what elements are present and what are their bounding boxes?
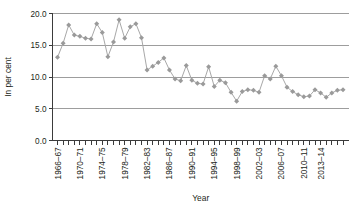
x-axis-tick-label: 2010–11 bbox=[300, 147, 309, 179]
data-point-marker bbox=[94, 21, 99, 26]
x-axis-tick-label: 1994–95 bbox=[210, 147, 219, 179]
data-point-marker bbox=[111, 40, 116, 45]
data-point-marker bbox=[206, 64, 211, 69]
data-point-marker bbox=[55, 55, 60, 60]
data-point-marker bbox=[128, 24, 133, 29]
x-axis-tick-label: 1990–91 bbox=[188, 147, 197, 179]
data-point-marker bbox=[296, 92, 301, 97]
y-axis-label-group: 0.05.010.015.020.0 bbox=[31, 10, 47, 146]
data-point-marker bbox=[133, 21, 138, 26]
data-point-marker bbox=[100, 30, 105, 35]
y-axis-title: In per cent bbox=[3, 57, 13, 97]
data-point-marker bbox=[72, 33, 77, 38]
data-point-marker bbox=[117, 17, 122, 22]
x-axis-tick-label: 2013–14 bbox=[317, 147, 326, 179]
x-axis-tick-label: 1982–83 bbox=[143, 147, 152, 179]
data-point-marker bbox=[335, 88, 340, 93]
chart-container: 0.05.010.015.020.0 1966–671970–711974–75… bbox=[0, 0, 355, 206]
data-point-marker bbox=[66, 22, 71, 27]
y-axis-tick-label: 15.0 bbox=[31, 41, 47, 50]
data-point-marker bbox=[234, 99, 239, 104]
x-axis-tick-label: 1986–87 bbox=[165, 147, 174, 179]
x-axis-tick-label: 2002–03 bbox=[255, 147, 264, 179]
series-markers-group bbox=[55, 17, 346, 103]
x-axis-tick-label: 1974–75 bbox=[98, 147, 107, 179]
data-point-marker bbox=[341, 87, 346, 92]
data-point-marker bbox=[77, 34, 82, 39]
x-axis-tick-label: 1970–71 bbox=[76, 147, 85, 179]
y-axis-tick-label: 0.0 bbox=[35, 137, 47, 146]
data-point-marker bbox=[273, 64, 278, 69]
data-point-marker bbox=[245, 87, 250, 92]
data-point-marker bbox=[167, 68, 172, 73]
data-point-marker bbox=[178, 78, 183, 83]
x-axis-tick-label: 1978–79 bbox=[121, 147, 130, 179]
line-chart: 0.05.010.015.020.0 1966–671970–711974–75… bbox=[0, 0, 355, 206]
data-point-marker bbox=[189, 78, 194, 83]
data-point-marker bbox=[257, 90, 262, 95]
x-axis-tick-label: 1998–99 bbox=[233, 147, 242, 179]
gridlines-group bbox=[53, 14, 350, 109]
y-axis-tick-label: 5.0 bbox=[35, 105, 47, 114]
data-point-marker bbox=[195, 81, 200, 86]
y-axis-tick-label: 20.0 bbox=[31, 10, 47, 19]
data-point-marker bbox=[251, 88, 256, 93]
data-point-marker bbox=[240, 89, 245, 94]
data-point-marker bbox=[184, 63, 189, 68]
x-axis-tick-label: 2006–07 bbox=[277, 147, 286, 179]
x-axis-title: Year bbox=[192, 193, 209, 203]
data-point-marker bbox=[229, 90, 234, 95]
data-point-marker bbox=[89, 36, 94, 41]
data-point-marker bbox=[139, 35, 144, 40]
x-axis-label-group: 1966–671970–711974–751978–791982–831986–… bbox=[54, 147, 326, 179]
data-point-marker bbox=[83, 36, 88, 41]
data-point-marker bbox=[201, 81, 206, 86]
y-axis-tick-label: 10.0 bbox=[31, 73, 47, 82]
data-point-marker bbox=[105, 54, 110, 59]
data-point-marker bbox=[223, 80, 228, 85]
data-point-marker bbox=[301, 94, 306, 99]
data-point-marker bbox=[122, 36, 127, 41]
x-axis-tick-label: 1966–67 bbox=[54, 147, 63, 179]
